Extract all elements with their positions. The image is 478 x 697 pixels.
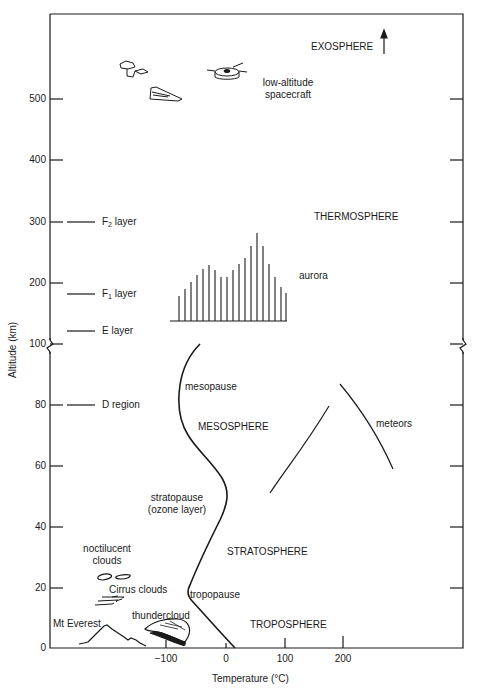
y-tick-80: 80 — [16, 399, 46, 411]
aurora-label: aurora — [299, 270, 328, 282]
cirrus-clouds-icon — [95, 596, 124, 605]
meteors-label: meteors — [376, 418, 412, 430]
f1-layer-label-rest: layer — [112, 288, 136, 299]
mesopause-label: mesopause — [185, 381, 237, 393]
f2-layer-label: F2 layer — [102, 216, 136, 231]
exosphere-up-arrow-icon — [381, 30, 387, 54]
troposphere-label: TROPOSPHERE — [250, 619, 327, 631]
x-tick-100: 100 — [265, 653, 305, 665]
thundercloud-label: thundercloud — [132, 610, 190, 622]
satellite-icon — [120, 61, 148, 77]
noctilucent-label-line1: noctilucent — [75, 543, 139, 555]
noctilucent-label-line2: clouds — [75, 555, 139, 567]
x-axis-ticks — [166, 636, 343, 648]
x-tick-minus-100: −100 — [146, 653, 186, 665]
y-tick-200: 200 — [16, 277, 46, 289]
x-tick-200: 200 — [323, 653, 363, 665]
mesosphere-label: MESOSPHERE — [198, 421, 269, 433]
spacecraft-label-line1: low-altitude — [252, 77, 324, 89]
y-axis-left-ticks — [50, 99, 63, 588]
cirrus-clouds-label: Cirrus clouds — [109, 584, 167, 596]
space-shuttle-icon — [150, 87, 182, 101]
stratopause-label-line2: (ozone layer) — [142, 504, 212, 516]
noctilucent-cloud-icon-1 — [98, 574, 112, 580]
stratopause-label: stratopause (ozone layer) — [142, 492, 212, 516]
f1-layer-label: F1 layer — [102, 288, 136, 303]
exosphere-label: EXOSPHERE — [311, 41, 373, 53]
spacecraft-label: low-altitude spacecraft — [252, 77, 324, 101]
y-tick-400: 400 — [16, 154, 46, 166]
y-tick-60: 60 — [16, 460, 46, 472]
y-tick-40: 40 — [16, 521, 46, 533]
skylab-station-icon — [207, 63, 247, 79]
y-axis-title: Altitude (km) — [7, 322, 18, 378]
y-tick-0: 0 — [16, 642, 46, 654]
y-tick-500: 500 — [16, 93, 46, 105]
e-layer-label: E layer — [102, 325, 133, 337]
y-axis-break-left — [47, 338, 53, 354]
d-region-label: D region — [102, 399, 140, 411]
y-tick-300: 300 — [16, 216, 46, 228]
tropopause-label: tropopause — [190, 589, 240, 601]
x-tick-0: 0 — [206, 653, 246, 665]
x-axis-title: Temperature (°C) — [212, 673, 289, 684]
y-tick-20: 20 — [16, 582, 46, 594]
stratosphere-label: STRATOSPHERE — [227, 546, 308, 558]
meteor-trail-left — [270, 406, 329, 493]
thermosphere-label: THERMOSPHERE — [314, 211, 398, 223]
y-axis-right-ticks — [450, 99, 463, 588]
noctilucent-clouds-label: noctilucent clouds — [75, 543, 139, 567]
mt-everest-label: Mt Everest — [53, 618, 101, 630]
y-tick-100: 100 — [16, 338, 46, 350]
thundercloud-icon — [145, 619, 190, 646]
y-axis-break-right — [460, 338, 466, 354]
stratopause-label-line1: stratopause — [142, 492, 212, 504]
noctilucent-cloud-icon-2 — [116, 575, 130, 579]
aurora-icon — [170, 233, 287, 321]
spacecraft-label-line2: spacecraft — [252, 89, 324, 101]
f2-layer-label-rest: layer — [112, 216, 136, 227]
